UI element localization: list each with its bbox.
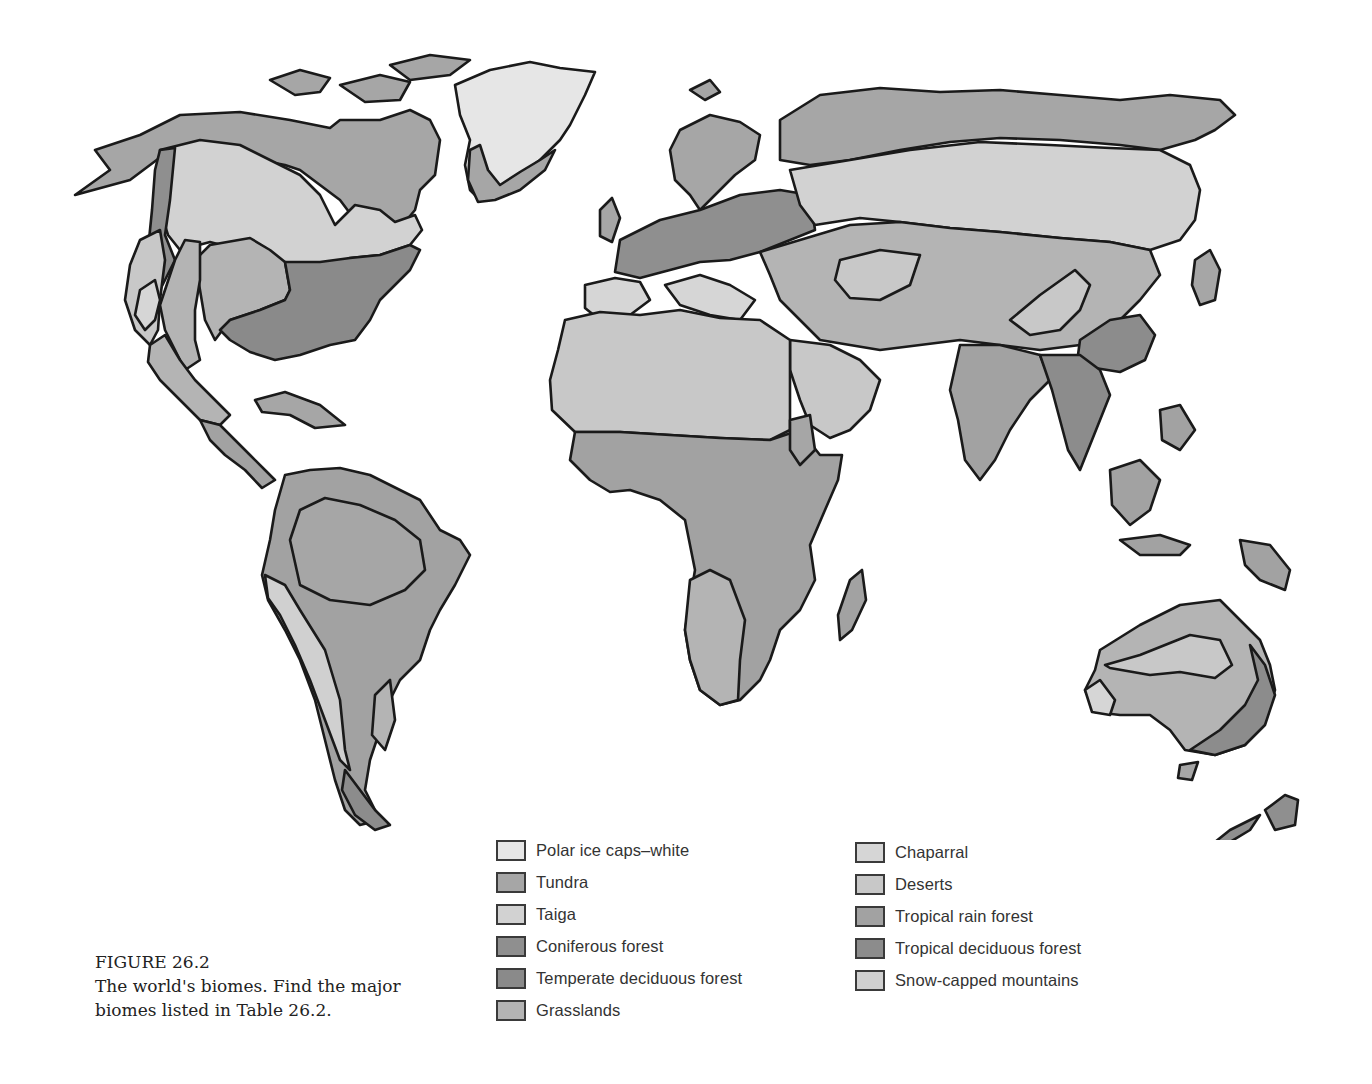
legend-label: Chaparral xyxy=(895,843,968,862)
legend-label: Snow-capped mountains xyxy=(895,971,1079,990)
legend-item: Grasslands xyxy=(496,994,742,1026)
legend-item: Tropical rain forest xyxy=(855,900,1081,932)
legend-label: Polar ice caps–white xyxy=(536,841,689,860)
figure-label: FIGURE 26.2 xyxy=(95,950,455,974)
legend-label: Temperate deciduous forest xyxy=(536,969,742,988)
legend-left: Polar ice caps–white Tundra Taiga Conife… xyxy=(496,834,742,1026)
figure-caption: FIGURE 26.2 The world's biomes. Find the… xyxy=(95,950,455,1022)
swatch-tropical-rain-forest xyxy=(855,906,885,927)
legend-label: Tropical deciduous forest xyxy=(895,939,1081,958)
swatch-coniferous-forest xyxy=(496,936,526,957)
legend-item: Coniferous forest xyxy=(496,930,742,962)
new-zealand xyxy=(1205,795,1298,840)
legend-item: Deserts xyxy=(855,868,1081,900)
swatch-grasslands xyxy=(496,1000,526,1021)
swatch-deserts xyxy=(855,874,885,895)
legend-item: Tropical deciduous forest xyxy=(855,932,1081,964)
legend-label: Deserts xyxy=(895,875,953,894)
legend-item: Temperate deciduous forest xyxy=(496,962,742,994)
legend-label: Coniferous forest xyxy=(536,937,663,956)
legend-label: Taiga xyxy=(536,905,576,924)
legend-label: Grasslands xyxy=(536,1001,620,1020)
legend-item: Snow-capped mountains xyxy=(855,964,1081,996)
swatch-taiga xyxy=(496,904,526,925)
swatch-polar-ice-caps xyxy=(496,840,526,861)
swatch-chaparral xyxy=(855,842,885,863)
south-america xyxy=(262,468,470,830)
legend-label: Tundra xyxy=(536,873,588,892)
legend-label: Tropical rain forest xyxy=(895,907,1033,926)
australia xyxy=(1085,540,1290,780)
swatch-tundra xyxy=(496,872,526,893)
legend-item: Chaparral xyxy=(855,836,1081,868)
legend-item: Tundra xyxy=(496,866,742,898)
north-america xyxy=(75,55,470,488)
swatch-temperate-deciduous-forest xyxy=(496,968,526,989)
legend-item: Taiga xyxy=(496,898,742,930)
figure-description: The world's biomes. Find the major biome… xyxy=(95,974,455,1022)
world-biome-map xyxy=(0,0,1372,840)
legend-right: Chaparral Deserts Tropical rain forest T… xyxy=(855,836,1081,996)
legend-item: Polar ice caps–white xyxy=(496,834,742,866)
greenland xyxy=(455,62,595,202)
swatch-snow-capped-mountains xyxy=(855,970,885,991)
swatch-tropical-deciduous-forest xyxy=(855,938,885,959)
